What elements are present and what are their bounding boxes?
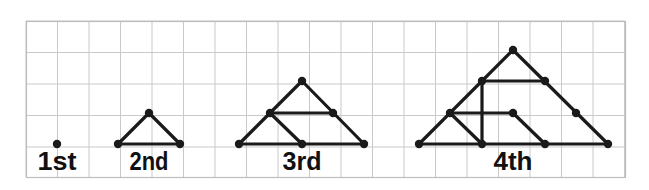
pattern-dot: [235, 140, 243, 148]
step-label-step-1: 1st: [38, 147, 78, 175]
pattern-dot: [478, 140, 486, 148]
step-label-step-2: 2nd: [130, 147, 169, 175]
pattern-dot: [509, 46, 517, 54]
pattern-dot: [446, 109, 454, 117]
pattern-dot: [478, 77, 486, 85]
pattern-nodes-layer: [53, 46, 612, 148]
step-labels-layer: 1st2nd3rd4th: [38, 147, 533, 175]
pattern-edge: [513, 113, 545, 144]
pattern-dot: [266, 109, 274, 117]
pattern-dot: [360, 140, 368, 148]
pattern-edge: [450, 113, 482, 144]
pattern-edge: [118, 113, 149, 144]
step-label-step-4: 4th: [494, 147, 533, 175]
pattern-diagram-svg: 1st2nd3rd4th: [0, 0, 649, 190]
pattern-dot: [145, 109, 153, 117]
pattern-edge: [513, 50, 608, 144]
grid-border: [27, 22, 626, 178]
pattern-dot: [509, 109, 517, 117]
pattern-dot: [541, 77, 549, 85]
pattern-edge: [149, 113, 180, 144]
pattern-edges-layer: [118, 50, 608, 144]
step-label-step-3: 3rd: [283, 147, 322, 175]
pattern-dot: [415, 140, 423, 148]
pattern-dot: [298, 77, 306, 85]
graph-paper-grid: [26, 21, 626, 178]
pattern-dot: [114, 140, 122, 148]
pattern-dot: [541, 140, 549, 148]
pattern-dot: [572, 109, 580, 117]
pattern-dot: [329, 109, 337, 117]
pattern-dot: [176, 140, 184, 148]
pattern-dot: [604, 140, 612, 148]
dot-pattern-figure: 1st2nd3rd4th: [0, 0, 649, 190]
pattern-edge: [270, 113, 302, 144]
